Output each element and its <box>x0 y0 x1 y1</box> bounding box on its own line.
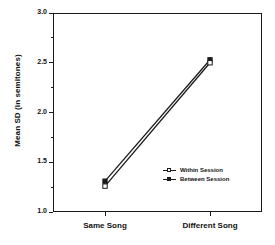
legend: Within Session Between Session <box>163 166 229 184</box>
legend-label: Between Session <box>180 175 229 184</box>
legend-label: Within Session <box>180 166 223 175</box>
open-square-marker-icon <box>163 166 176 175</box>
production-line-chart: Production Mean SD (in semitones) 3.0 2.… <box>0 0 275 245</box>
filled-square-marker-icon <box>163 175 176 184</box>
data-point-between-session-same-song <box>103 179 107 183</box>
series-between-session <box>103 58 212 184</box>
data-point-within-session-same-song <box>103 184 107 188</box>
series-layer <box>0 0 275 245</box>
series-line-between-session <box>105 60 210 181</box>
legend-item-between-session: Between Session <box>163 175 229 184</box>
data-point-within-session-different-song <box>208 61 212 65</box>
legend-item-within-session: Within Session <box>163 166 229 175</box>
